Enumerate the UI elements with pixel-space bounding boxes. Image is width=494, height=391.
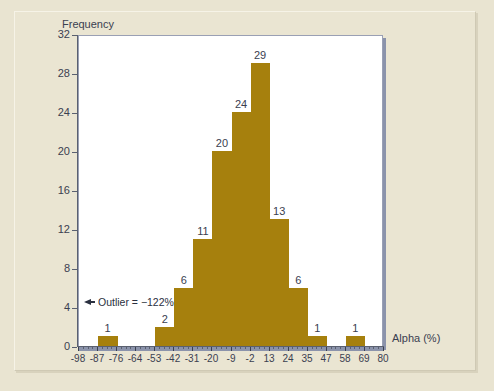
y-tick-label: 20: [40, 146, 70, 157]
left-arrow-icon: [84, 299, 91, 305]
x-minor-tick: [226, 347, 227, 349]
bar-value-label: 6: [163, 275, 203, 286]
arrow-tail-icon: [91, 301, 95, 303]
chart-page: Frequency 048121620242832 -98-87-76-64-5…: [0, 0, 494, 391]
bar-value-label: 1: [296, 323, 336, 334]
y-tick: [72, 74, 77, 75]
x-minor-tick: [140, 347, 141, 349]
y-tick: [72, 269, 77, 270]
y-axis-line: [77, 35, 78, 347]
x-minor-tick: [259, 347, 260, 349]
outlier-annotation: Outlier = −122%: [84, 296, 174, 308]
bar-value-label: 1: [87, 323, 127, 334]
x-minor-tick: [107, 347, 108, 349]
x-minor-tick: [111, 347, 112, 349]
y-tick-label: 0: [40, 341, 70, 352]
x-minor-tick: [183, 347, 184, 349]
x-minor-tick: [92, 347, 93, 349]
histogram-bar: [212, 151, 232, 346]
x-tick: [97, 347, 98, 351]
bar-value-label: 11: [182, 226, 222, 237]
y-tick: [72, 308, 77, 309]
x-minor-tick: [335, 347, 336, 349]
x-minor-tick: [350, 347, 351, 349]
bar-value-label: 24: [220, 99, 260, 110]
x-minor-tick: [235, 347, 236, 349]
x-tick: [269, 347, 270, 351]
y-tick: [72, 347, 77, 348]
x-minor-tick: [240, 347, 241, 349]
bar-value-label: 13: [258, 206, 298, 217]
x-minor-tick: [145, 347, 146, 349]
x-minor-tick: [197, 347, 198, 349]
x-minor-tick: [178, 347, 179, 349]
bar-value-label: 2: [144, 314, 184, 325]
outlier-annotation-label: Outlier = −122%: [98, 296, 174, 308]
x-axis-title: Alpha (%): [392, 332, 440, 344]
x-minor-tick: [316, 347, 317, 349]
x-minor-tick: [121, 347, 122, 349]
x-minor-tick: [292, 347, 293, 349]
x-tick: [345, 347, 346, 351]
x-minor-tick: [159, 347, 160, 349]
x-tick: [364, 347, 365, 351]
bar-value-label: 29: [239, 50, 279, 61]
x-tick: [192, 347, 193, 351]
x-minor-tick: [83, 347, 84, 349]
histogram-bar: [308, 336, 328, 346]
x-tick: [250, 347, 251, 351]
y-tick: [72, 35, 77, 36]
x-minor-tick: [88, 347, 89, 349]
x-minor-tick: [297, 347, 298, 349]
y-tick-label: 24: [40, 107, 70, 118]
x-minor-tick: [340, 347, 341, 349]
x-minor-tick: [130, 347, 131, 349]
histogram-bar: [98, 336, 118, 346]
x-minor-tick: [207, 347, 208, 349]
y-tick: [72, 191, 77, 192]
histogram-bar: [193, 239, 213, 346]
x-minor-tick: [254, 347, 255, 349]
x-minor-tick: [221, 347, 222, 349]
bar-value-label: 20: [201, 138, 241, 149]
x-minor-tick: [102, 347, 103, 349]
x-minor-tick: [273, 347, 274, 349]
x-minor-tick: [283, 347, 284, 349]
x-minor-tick: [373, 347, 374, 349]
histogram-bar: [289, 288, 309, 347]
x-tick: [211, 347, 212, 351]
x-minor-tick: [245, 347, 246, 349]
bar-value-label: 1: [334, 323, 374, 334]
x-minor-tick: [369, 347, 370, 349]
y-tick-label: 8: [40, 263, 70, 274]
x-tick-label: 80: [371, 353, 395, 365]
x-minor-tick: [354, 347, 355, 349]
histogram-bar: [346, 336, 366, 346]
y-tick-label: 32: [40, 29, 70, 40]
histogram-bar: [155, 327, 175, 347]
x-minor-tick: [321, 347, 322, 349]
x-minor-tick: [264, 347, 265, 349]
x-minor-tick: [164, 347, 165, 349]
x-minor-tick: [302, 347, 303, 349]
bar-value-label: 6: [277, 275, 317, 286]
x-tick: [135, 347, 136, 351]
x-minor-tick: [312, 347, 313, 349]
x-tick: [78, 347, 79, 351]
x-minor-tick: [278, 347, 279, 349]
y-tick: [72, 152, 77, 153]
x-minor-tick: [126, 347, 127, 349]
y-tick-label: 12: [40, 224, 70, 235]
x-tick: [326, 347, 327, 351]
y-tick-label: 16: [40, 185, 70, 196]
y-tick: [72, 113, 77, 114]
x-minor-tick: [149, 347, 150, 349]
y-tick-label: 4: [40, 302, 70, 313]
x-tick: [383, 347, 384, 351]
x-tick: [307, 347, 308, 351]
x-tick: [116, 347, 117, 351]
x-minor-tick: [202, 347, 203, 349]
y-tick-label: 28: [40, 68, 70, 79]
x-tick: [288, 347, 289, 351]
x-tick: [231, 347, 232, 351]
